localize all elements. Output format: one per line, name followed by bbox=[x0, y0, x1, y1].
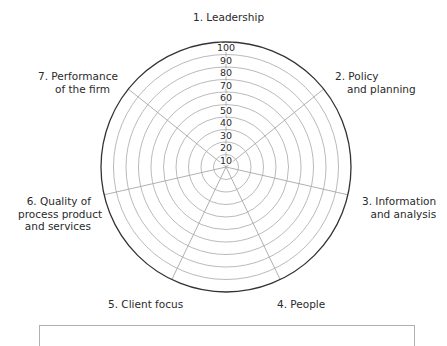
axis-label-quality: 6. Quality of process product and servic… bbox=[18, 195, 91, 233]
tick-label-80: 80 bbox=[220, 67, 232, 78]
tick-label-20: 20 bbox=[220, 142, 232, 153]
legend-box bbox=[39, 325, 415, 346]
spoke-axis-6 bbox=[104, 167, 226, 195]
tick-label-60: 60 bbox=[220, 92, 232, 103]
axis-label-performance: 7. Performance of the firm bbox=[38, 70, 110, 95]
tick-label-70: 70 bbox=[220, 80, 232, 91]
tick-label-30: 30 bbox=[220, 130, 232, 141]
tick-label-50: 50 bbox=[220, 105, 232, 116]
spoke-axis-3 bbox=[226, 167, 348, 195]
spoke-axis-4 bbox=[226, 167, 280, 280]
tick-label-90: 90 bbox=[220, 55, 232, 66]
axis-label-people: 4. People bbox=[277, 298, 325, 311]
tick-label-100: 100 bbox=[217, 42, 235, 53]
axis-label-leadership: 1. Leadership bbox=[193, 11, 264, 24]
axis-label-client-focus: 5. Client focus bbox=[108, 298, 183, 311]
axis-label-information-analysis: 3. Information and analysis bbox=[362, 195, 436, 220]
tick-label-10: 10 bbox=[220, 155, 232, 166]
tick-label-40: 40 bbox=[220, 117, 232, 128]
axis-label-policy-planning: 2. Policy and planning bbox=[335, 70, 416, 95]
spoke-axis-5 bbox=[172, 167, 226, 280]
radial-tick-labels: 102030405060708090100 bbox=[217, 42, 235, 166]
